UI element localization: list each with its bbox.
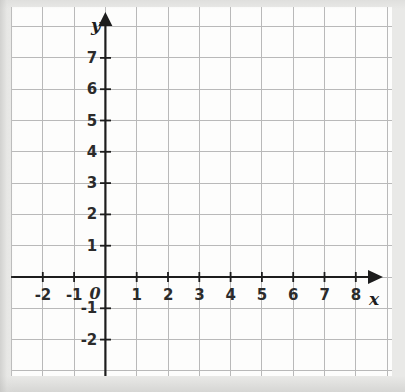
y-tick-label: 1 — [87, 238, 97, 253]
x-tick-label: 8 — [351, 288, 361, 303]
x-tick-label: -2 — [35, 288, 51, 303]
x-tick-label: 6 — [288, 288, 298, 303]
plot-area: -2 -1 1 2 3 4 5 6 7 8 7 6 5 4 3 2 1 -1 -… — [11, 7, 392, 376]
origin-label: 0 — [89, 286, 100, 302]
graph-figure: -2 -1 1 2 3 4 5 6 7 8 7 6 5 4 3 2 1 -1 -… — [0, 0, 405, 392]
y-tick-label: 6 — [87, 82, 97, 97]
y-tick-label: 2 — [87, 207, 97, 222]
tick-labels: -2 -1 1 2 3 4 5 6 7 8 7 6 5 4 3 2 1 -1 -… — [11, 7, 392, 376]
y-tick-label: -2 — [81, 332, 97, 347]
y-tick-label: -1 — [81, 301, 97, 316]
y-axis-name: y — [91, 17, 101, 34]
x-tick-label: 2 — [163, 288, 173, 303]
y-tick-label: 7 — [87, 50, 97, 65]
x-tick-label: 1 — [132, 288, 142, 303]
x-axis-name: x — [369, 291, 379, 308]
x-tick-label: 4 — [225, 288, 235, 303]
y-tick-label: 3 — [87, 176, 97, 191]
x-tick-label: 7 — [319, 288, 329, 303]
y-tick-label: 5 — [87, 113, 97, 128]
x-tick-label: 3 — [194, 288, 204, 303]
y-tick-label: 4 — [87, 144, 97, 159]
x-tick-label: 5 — [257, 288, 267, 303]
